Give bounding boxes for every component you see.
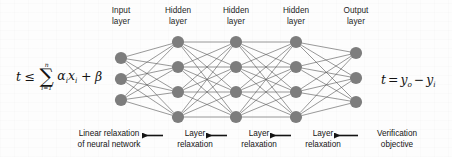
figure-root: Input layer Hidden layer Hidden layer Hi… (0, 0, 452, 157)
pipeline-arrows (0, 0, 452, 157)
